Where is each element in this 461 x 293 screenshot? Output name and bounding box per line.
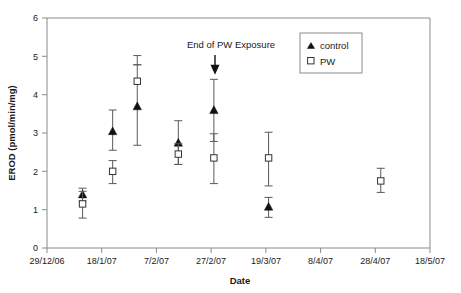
- marker-control-triangle-icon: [133, 102, 141, 110]
- down-arrow-head-icon: [212, 66, 219, 74]
- data-point: [377, 168, 385, 192]
- y-tick-label-3: 3: [33, 128, 38, 138]
- data-point: [174, 144, 182, 165]
- legend-label-control: control: [320, 40, 349, 51]
- y-tick-label-5: 5: [33, 52, 38, 62]
- x-tick-label-1: 18/1/07: [87, 256, 117, 266]
- x-tick-label-5: 8/4/07: [308, 256, 333, 266]
- y-tick-label-2: 2: [33, 167, 38, 177]
- series-control: [78, 56, 272, 218]
- marker-pw-square-icon: [265, 155, 271, 161]
- annotation-label: End of PW Exposure: [187, 39, 275, 50]
- marker-pw-square-icon: [79, 201, 85, 207]
- marker-pw-square-icon: [109, 168, 115, 174]
- chart-canvas: 0 1 2 3 4 5 6 29/12/06 18/1/07 7/2/07 27…: [0, 0, 461, 293]
- x-axis-ticks: 29/12/06 18/1/07 7/2/07 27/2/07 19/3/07 …: [29, 248, 445, 266]
- marker-pw-square-icon: [211, 155, 217, 161]
- y-tick-label-4: 4: [33, 90, 38, 100]
- legend-box: [300, 33, 362, 73]
- marker-control-triangle-icon: [264, 202, 272, 210]
- erod-scatter-chart: 0 1 2 3 4 5 6 29/12/06 18/1/07 7/2/07 27…: [0, 0, 461, 293]
- x-tick-label-6: 28/4/07: [360, 256, 390, 266]
- data-point: [108, 110, 116, 150]
- marker-control-triangle-icon: [210, 106, 218, 114]
- marker-control-triangle-icon: [108, 127, 116, 135]
- data-point: [264, 197, 272, 217]
- data-point: [265, 132, 273, 186]
- legend-marker-pw-square-icon: [308, 58, 314, 64]
- y-tick-label-1: 1: [33, 205, 38, 215]
- y-tick-label-6: 6: [33, 13, 38, 23]
- x-axis-title: Date: [230, 275, 251, 286]
- data-point: [133, 56, 141, 146]
- marker-pw-square-icon: [175, 151, 181, 157]
- legend: control PW: [300, 33, 362, 73]
- x-tick-label-0: 29/12/06: [29, 256, 64, 266]
- marker-pw-square-icon: [134, 78, 140, 84]
- x-tick-label-7: 18/5/07: [415, 256, 445, 266]
- x-tick-label-4: 19/3/07: [251, 256, 281, 266]
- y-axis-title: EROD (pmol/min/mg): [6, 85, 17, 181]
- y-axis-ticks: 0 1 2 3 4 5 6: [33, 13, 47, 253]
- data-point: [210, 79, 218, 141]
- marker-pw-square-icon: [378, 178, 384, 184]
- series-pw: [79, 65, 385, 218]
- data-point: [109, 161, 117, 184]
- annotation-end-of-pw-exposure: End of PW Exposure: [187, 39, 275, 73]
- x-tick-label-3: 27/2/07: [196, 256, 226, 266]
- data-series-layer: [78, 56, 384, 219]
- x-tick-label-2: 7/2/07: [144, 256, 169, 266]
- y-tick-label-0: 0: [33, 243, 38, 253]
- legend-label-pw: PW: [320, 56, 335, 67]
- plot-frame: [47, 18, 430, 248]
